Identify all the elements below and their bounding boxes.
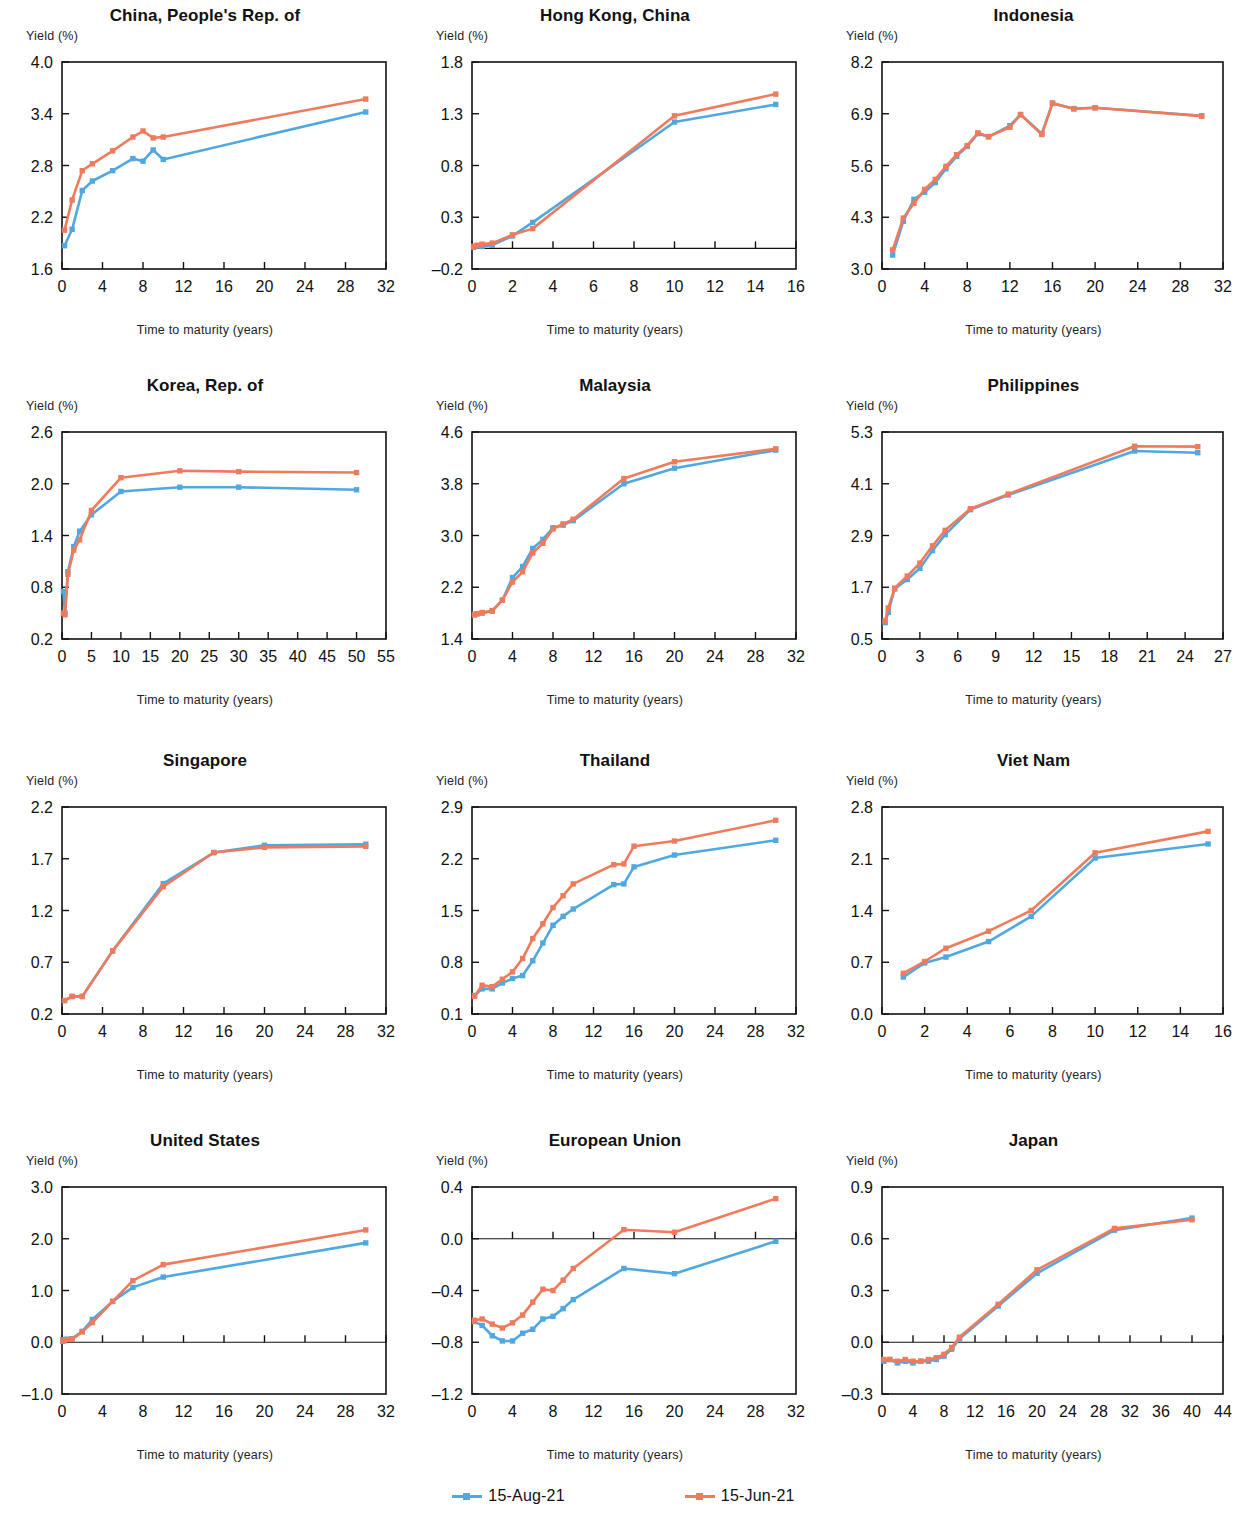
x-tick-label: 50 [348,648,366,665]
x-tick-label: 10 [666,278,684,295]
y-tick-label: 2.0 [31,476,53,493]
series-marker [69,1336,74,1341]
plot-wrapper: –0.20.30.81.31.80246810121416 [410,50,820,315]
series-marker [479,1323,484,1328]
x-tick-label: 24 [296,278,314,295]
x-tick-label: 20 [1086,278,1104,295]
x-tick-label: 10 [112,648,130,665]
x-tick-label: 24 [1059,1403,1077,1420]
legend-label-15-jun-21: 15-Jun-21 [721,1487,795,1505]
series-marker [943,954,948,959]
series-marker [90,178,95,183]
plot-wrapper: 0.20.71.21.72.2048121620242832 [0,795,410,1060]
series-marker [354,487,359,492]
series-line [65,99,366,230]
x-tick-label: 20 [666,1403,684,1420]
series-marker [130,134,135,139]
series-marker [621,476,626,481]
series-marker [510,1320,515,1325]
series-marker [530,550,535,555]
series-line [63,487,356,613]
x-axis-title: Time to maturity (years) [410,693,820,707]
y-tick-label: 0.8 [31,579,53,596]
series-marker [571,881,576,886]
x-tick-label: 5 [87,648,96,665]
x-tick-label: 20 [256,1023,274,1040]
y-tick-label: 0.3 [441,209,463,226]
series-marker [110,168,115,173]
series-line [63,1230,366,1341]
y-tick-label: –1.2 [432,1386,463,1403]
yield-curve-panel-grid: China, People's Rep. ofYield (%)1.62.22.… [0,0,1247,1485]
series-marker [1132,448,1137,453]
y-tick-label: 1.5 [441,903,463,920]
series-marker [161,1262,166,1267]
y-tick-label: 1.3 [441,106,463,123]
y-tick-label: 2.2 [441,851,463,868]
series-marker [161,1274,166,1279]
x-tick-label: 40 [1183,1403,1201,1420]
series-marker [130,156,135,161]
plot-area: 0.51.72.94.15.30369121518212427 [820,420,1247,685]
y-tick-label: –0.4 [432,1283,463,1300]
series-line [884,1220,1192,1361]
series-marker [922,187,927,192]
plot-wrapper: 1.62.22.83.44.0048121620242832 [0,50,410,315]
chart-title: China, People's Rep. of [0,0,410,30]
x-tick-label: 35 [259,648,277,665]
series-marker [621,1266,626,1271]
series-marker [64,1337,69,1342]
series-marker [540,541,545,546]
series-marker [520,569,525,574]
x-tick-label: 24 [706,648,724,665]
series-line [474,104,776,247]
y-axis-title: Yield (%) [26,774,78,788]
x-tick-label: 16 [1214,1023,1232,1040]
y-tick-label: 1.7 [851,579,873,596]
series-marker [161,157,166,162]
plot-area: –0.20.30.81.31.80246810121416 [410,50,820,315]
series-marker [903,1357,908,1362]
x-tick-label: 4 [920,278,929,295]
x-tick-label: 4 [508,1023,517,1040]
x-tick-label: 8 [549,648,558,665]
series-marker [500,1338,505,1343]
series-marker [1039,132,1044,137]
x-tick-label: 32 [1214,278,1232,295]
series-marker [530,958,535,963]
series-marker [996,1302,1001,1307]
x-tick-label: 12 [585,1403,603,1420]
x-tick-label: 15 [141,648,159,665]
series-marker [621,861,626,866]
x-tick-label: 14 [1171,1023,1189,1040]
series-marker [560,1277,565,1282]
series-marker [520,1330,525,1335]
series-marker [773,818,778,823]
y-tick-label: 0.3 [851,1283,873,1300]
x-tick-label: 12 [1129,1023,1147,1040]
series-marker [1199,113,1204,118]
series-marker [975,130,980,135]
x-tick-label: 27 [1214,648,1232,665]
series-marker [550,1314,555,1319]
series-marker [510,976,515,981]
series-marker [490,1333,495,1338]
series-marker [472,1318,477,1323]
y-tick-label: 2.2 [31,209,53,226]
y-tick-label: 4.0 [31,54,53,71]
y-tick-label: 0.2 [31,631,53,648]
x-tick-label: 32 [377,1403,395,1420]
series-marker [773,102,778,107]
x-tick-label: 0 [878,1403,887,1420]
y-tick-label: 0.0 [851,1006,873,1023]
series-marker [118,489,123,494]
chart-title: Philippines [820,370,1247,400]
series-marker [621,481,626,486]
series-marker [918,1359,923,1364]
series-marker [560,893,565,898]
series-line [475,1241,776,1341]
series-marker [490,608,495,613]
series-marker [917,560,922,565]
plot-wrapper: –1.2–0.8–0.40.00.4048121620242832 [410,1175,820,1440]
series-line [885,451,1198,623]
